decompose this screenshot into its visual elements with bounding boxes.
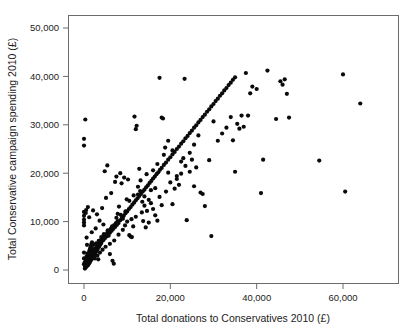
data-point: [103, 169, 107, 173]
data-point: [242, 125, 246, 129]
data-point: [274, 117, 278, 121]
plot-border: [69, 16, 399, 284]
data-point: [129, 217, 133, 221]
data-point: [211, 119, 215, 123]
data-point: [209, 234, 213, 238]
data-point: [259, 191, 263, 195]
data-point: [207, 158, 211, 162]
x-tick-label: 20,000: [156, 292, 185, 303]
data-point: [153, 213, 157, 217]
data-point: [162, 153, 166, 157]
data-point: [88, 256, 92, 260]
data-point: [220, 131, 224, 135]
data-point: [145, 209, 149, 213]
data-point: [82, 137, 86, 141]
data-point: [123, 223, 127, 227]
data-point: [343, 189, 347, 193]
data-point: [135, 124, 139, 128]
data-point: [358, 101, 362, 105]
data-point: [170, 202, 174, 206]
data-point: [153, 186, 157, 190]
data-point: [192, 184, 196, 188]
chart-canvas: 010,00020,00030,00040,00050,000 020,0004…: [0, 0, 414, 335]
data-point: [182, 77, 186, 81]
data-point: [149, 188, 153, 192]
data-point: [83, 117, 87, 121]
data-point: [157, 76, 161, 80]
data-point: [151, 207, 155, 211]
data-point: [190, 158, 194, 162]
y-tick-label: 50,000: [30, 22, 59, 33]
data-point: [118, 171, 122, 175]
data-point: [112, 238, 116, 242]
data-point: [235, 122, 239, 126]
data-point: [122, 175, 126, 179]
data-point: [112, 262, 116, 266]
data-point: [141, 219, 145, 223]
data-point: [160, 203, 164, 207]
data-point: [144, 225, 148, 229]
data-point: [255, 87, 259, 91]
data-point: [155, 162, 159, 166]
data-point: [166, 139, 170, 143]
data-point: [110, 224, 114, 228]
data-point: [130, 235, 134, 239]
data-point: [140, 200, 144, 204]
data-point: [183, 164, 187, 168]
data-point: [94, 226, 98, 230]
data-point: [90, 247, 94, 251]
data-point: [131, 224, 135, 228]
data-point: [233, 170, 237, 174]
data-point: [106, 228, 110, 232]
data-point: [280, 83, 284, 87]
data-point: [170, 148, 174, 152]
data-point: [136, 185, 140, 189]
data-point: [125, 220, 129, 224]
data-point: [82, 144, 86, 148]
data-point: [126, 177, 130, 181]
y-tick-label: 20,000: [30, 168, 59, 179]
data-point: [97, 239, 101, 243]
data-point: [142, 204, 146, 208]
data-point: [140, 210, 144, 214]
data-point: [91, 208, 95, 212]
data-point: [132, 193, 136, 197]
data-point: [84, 235, 88, 239]
data-point: [181, 156, 185, 160]
data-point: [161, 116, 165, 120]
data-point: [138, 178, 142, 182]
data-point: [132, 114, 136, 118]
data-point: [229, 115, 233, 119]
data-point: [244, 71, 248, 75]
data-point: [121, 217, 125, 221]
data-point: [188, 170, 192, 174]
data-point: [216, 139, 220, 143]
data-point: [144, 172, 148, 176]
data-point: [97, 219, 101, 223]
x-axis-title: Total donations to Conservatives 2010 (£…: [136, 312, 330, 324]
data-point: [90, 230, 94, 234]
data-point: [192, 143, 196, 147]
data-point: [85, 251, 89, 255]
data-point: [163, 145, 167, 149]
scatter-plot-figure: 010,00020,00030,00040,00050,000 020,0004…: [0, 0, 414, 335]
data-point: [177, 183, 181, 187]
data-point: [246, 114, 250, 118]
data-point: [173, 187, 177, 191]
data-point: [250, 84, 254, 88]
y-axis-ticks: 010,00020,00030,00040,00050,000: [30, 22, 69, 275]
data-point: [166, 171, 170, 175]
y-axis-title: Total Conservative campaign spending 201…: [6, 38, 18, 260]
data-point: [164, 189, 168, 193]
data-point: [100, 206, 104, 210]
y-tick-label: 40,000: [30, 71, 59, 82]
data-point: [108, 252, 112, 256]
data-point: [102, 232, 106, 236]
data-point: [114, 174, 118, 178]
y-tick-label: 0: [54, 264, 59, 275]
data-point: [105, 163, 109, 167]
data-point: [239, 114, 243, 118]
data-point: [137, 167, 141, 171]
data-point: [109, 191, 113, 195]
data-point: [104, 196, 108, 200]
